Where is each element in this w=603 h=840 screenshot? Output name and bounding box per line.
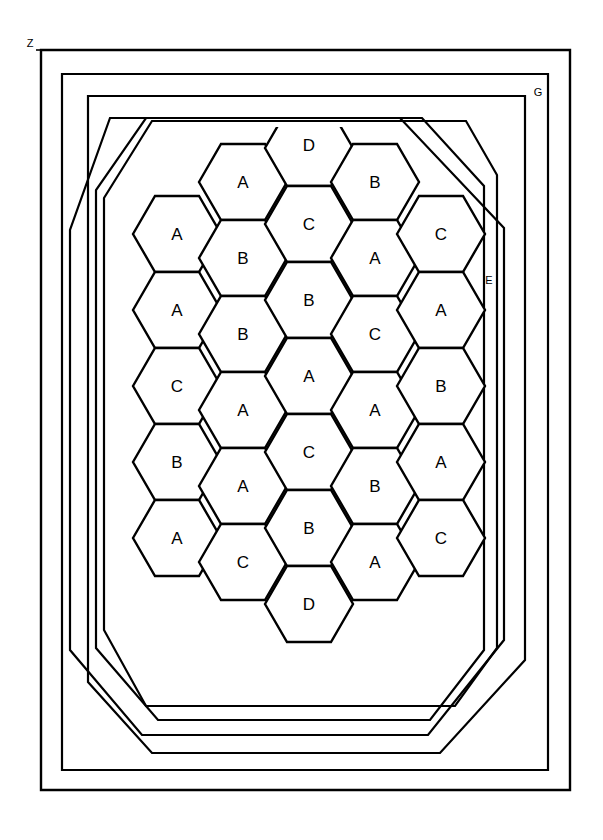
hex-cell-label: B — [303, 519, 314, 538]
hex-cell-label: C — [369, 325, 381, 344]
hex-cell-label: B — [435, 377, 446, 396]
hex-cell-label: A — [171, 301, 183, 320]
hex-cell-label: A — [435, 453, 447, 472]
hex-cell-label: A — [171, 529, 183, 548]
hex-cell-label: C — [435, 529, 447, 548]
hex-cell-label: C — [237, 553, 249, 572]
hex-cell-label: C — [171, 377, 183, 396]
hex-cell-label: A — [369, 401, 381, 420]
hex-cell-label: B — [171, 453, 182, 472]
hex-cell-label: B — [237, 249, 248, 268]
hex-cell-label: A — [303, 367, 315, 386]
hex-cell-label: C — [303, 443, 315, 462]
hex-cell-label: C — [303, 215, 315, 234]
callout-label-e: E — [485, 274, 492, 286]
hex-cell-label: D — [303, 136, 315, 155]
hex-cell-label: B — [369, 477, 380, 496]
hex-cell-label: B — [237, 325, 248, 344]
hex-cell-label: A — [237, 477, 249, 496]
hex-cell-label: A — [237, 401, 249, 420]
hex-cell-label: B — [303, 291, 314, 310]
hex-cell-label: A — [237, 173, 249, 192]
hex-cell-label: D — [303, 595, 315, 614]
hex-cell-label: A — [369, 553, 381, 572]
hex-cell-label: B — [369, 173, 380, 192]
callout-label-g: G — [534, 86, 543, 98]
callout-label-z: Z — [27, 37, 34, 49]
hex-frame-figure: AACBAABBAACDCBACBDBACABACABAC Z G E — [0, 0, 603, 840]
hex-grid: AACBAABBAACDCBACBDBACABACABAC — [133, 110, 485, 642]
hex-cell-label: A — [369, 249, 381, 268]
hex-cell-label: C — [435, 225, 447, 244]
hex-cell-label: A — [171, 225, 183, 244]
diagram-canvas: AACBAABBAACDCBACBDBACABACABAC Z G E — [0, 0, 603, 840]
hex-cell-label: A — [435, 301, 447, 320]
